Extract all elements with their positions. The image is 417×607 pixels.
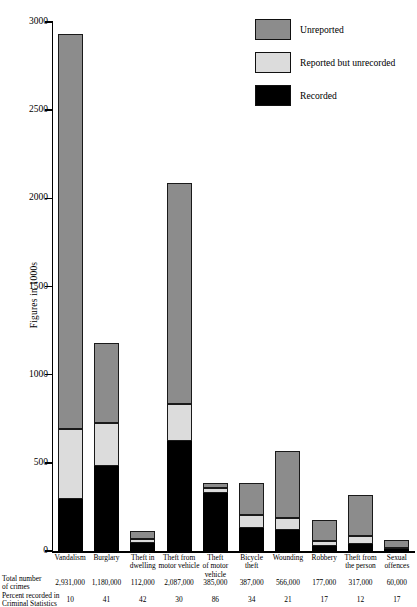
bar-bicycle-theft: [239, 483, 264, 551]
bar-wounding: [275, 451, 300, 551]
stacked-bar-chart: 050010001500200025003000 Figures in 1000…: [0, 0, 417, 607]
bar-segment-recorded: [58, 499, 83, 551]
y-tick-mark: [45, 286, 53, 287]
bar-segment-recorded: [203, 493, 228, 551]
bar-segment-reported-but-unrecorded: [94, 423, 119, 465]
legend: UnreportedReported but unrecordedRecorde…: [255, 14, 417, 113]
y-tick-mark: [45, 109, 53, 110]
legend-item: Recorded: [255, 80, 417, 110]
data-table: Total numberof crimes Percent recorded i…: [0, 575, 417, 607]
bar-segment-recorded: [167, 441, 192, 551]
bar-segment-reported-but-unrecorded: [312, 541, 337, 545]
legend-label: Reported but unrecorded: [300, 57, 395, 68]
bar-burglary: [94, 343, 119, 551]
y-tick-label: 2500: [14, 105, 48, 115]
x-axis-label: Sexualoffences: [375, 554, 417, 571]
y-tick-label: 3000: [14, 17, 48, 27]
bar-theft-in-dwelling: [130, 531, 155, 551]
y-tick-mark: [45, 21, 53, 22]
y-axis-ticks: 050010001500200025003000: [0, 0, 48, 607]
bar-segment-recorded: [348, 544, 373, 551]
y-tick-label: 500: [14, 458, 48, 468]
y-tick-mark: [45, 550, 53, 551]
bar-segment-recorded: [275, 530, 300, 551]
legend-item: Unreported: [255, 14, 417, 44]
bar-segment-unreported: [384, 540, 409, 547]
bar-segment-unreported: [167, 183, 192, 404]
bar-segment-unreported: [239, 483, 264, 515]
legend-label: Recorded: [300, 90, 337, 101]
y-tick-mark: [45, 462, 53, 463]
bar-theft-of-motor-vehicle: [203, 483, 228, 551]
bar-segment-reported-but-unrecorded: [130, 539, 155, 543]
bar-segment-reported-but-unrecorded: [275, 518, 300, 530]
table-cell-percent: 17: [373, 596, 417, 604]
bar-vandalism: [58, 34, 83, 551]
bar-segment-reported-but-unrecorded: [203, 488, 228, 493]
bar-robbery: [312, 520, 337, 551]
bar-segment-unreported: [348, 495, 373, 536]
legend-swatch: [255, 85, 291, 106]
bar-segment-recorded: [384, 549, 409, 551]
bar-segment-reported-but-unrecorded: [58, 429, 83, 499]
bar-segment-unreported: [203, 483, 228, 488]
y-tick-label: 2000: [14, 194, 48, 204]
y-tick-mark: [45, 374, 53, 375]
legend-swatch: [255, 19, 291, 40]
y-axis-label: Figures in 1000s: [29, 215, 39, 375]
bar-segment-unreported: [130, 531, 155, 539]
legend-item: Reported but unrecorded: [255, 47, 417, 77]
bar-segment-unreported: [312, 520, 337, 542]
bar-segment-recorded: [312, 546, 337, 551]
table-cell-total: 60,000: [373, 579, 417, 587]
bar-segment-unreported: [94, 343, 119, 423]
legend-label: Unreported: [300, 24, 344, 35]
bar-theft-from-motor-vehicle: [167, 183, 192, 551]
bar-segment-unreported: [275, 451, 300, 518]
bar-segment-unreported: [58, 34, 83, 429]
bar-segment-reported-but-unrecorded: [239, 515, 264, 528]
bar-segment-recorded: [130, 543, 155, 551]
bar-segment-reported-but-unrecorded: [167, 404, 192, 441]
bar-theft-from-the-person: [348, 495, 373, 551]
bar-segment-reported-but-unrecorded: [348, 536, 373, 544]
legend-swatch: [255, 52, 291, 73]
y-tick-label: 0: [14, 546, 48, 556]
bar-sexual-offences: [384, 540, 409, 551]
y-tick-mark: [45, 198, 53, 199]
bar-segment-recorded: [239, 528, 264, 551]
table-row-label-total: Total numberof crimes: [2, 575, 42, 592]
bar-segment-recorded: [94, 466, 119, 551]
